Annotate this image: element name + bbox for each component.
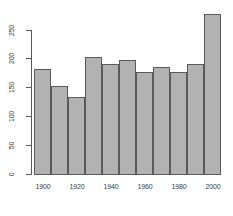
y-axis-tick-label-5: 250 bbox=[9, 24, 16, 35]
y-axis-tick-label-2-wrap: 100 bbox=[0, 111, 24, 121]
y-axis-tick-3 bbox=[26, 87, 31, 88]
y-axis-tick-label-3-wrap: 150 bbox=[0, 82, 24, 92]
y-axis-tick-label-4-wrap: 200 bbox=[0, 53, 24, 63]
y-axis-tick-label-4: 200 bbox=[9, 52, 16, 63]
bar-1990[interactable] bbox=[187, 64, 204, 175]
x-axis-tick-label-1960: 1960 bbox=[138, 183, 153, 190]
y-axis-tick-label-0-wrap: 0 bbox=[0, 169, 24, 179]
bar-1920[interactable] bbox=[68, 97, 85, 175]
y-axis-tick-4 bbox=[26, 58, 31, 59]
x-axis-tick-label-1900: 1900 bbox=[36, 183, 51, 190]
x-axis-tick-label-2000: 2000 bbox=[206, 183, 221, 190]
y-axis-tick-label-3: 150 bbox=[9, 81, 16, 92]
y-axis-tick-label-2: 100 bbox=[9, 110, 16, 121]
bar-1970[interactable] bbox=[153, 67, 170, 175]
y-axis-tick-label-0: 0 bbox=[8, 172, 15, 176]
x-axis-tick-label-1920: 1920 bbox=[70, 183, 85, 190]
bar-1940[interactable] bbox=[102, 64, 119, 175]
y-axis-line bbox=[31, 30, 32, 175]
y-axis-tick-0 bbox=[26, 174, 31, 175]
bar-1930[interactable] bbox=[85, 57, 102, 175]
x-axis-tick-label-1940: 1940 bbox=[104, 183, 119, 190]
x-axis-tick-label-1980: 1980 bbox=[172, 183, 187, 190]
y-axis-tick-1 bbox=[26, 145, 31, 146]
y-axis-tick-label-1: 50 bbox=[8, 141, 15, 148]
y-axis-tick-label-5-wrap: 250 bbox=[0, 25, 24, 35]
y-axis-tick-2 bbox=[26, 116, 31, 117]
bar-1960[interactable] bbox=[136, 72, 153, 175]
bar-1900[interactable] bbox=[34, 69, 51, 175]
bar-series bbox=[34, 10, 222, 175]
bar-1980[interactable] bbox=[170, 72, 187, 175]
bar-1910[interactable] bbox=[51, 86, 68, 175]
bar-2000[interactable] bbox=[204, 14, 221, 175]
bar-chart: 0 50 100 150 200 250 1900 1920 1940 1960… bbox=[0, 0, 233, 216]
y-axis-tick-label-1-wrap: 50 bbox=[0, 140, 24, 150]
bar-1950[interactable] bbox=[119, 60, 136, 175]
y-axis-tick-5 bbox=[26, 30, 31, 31]
